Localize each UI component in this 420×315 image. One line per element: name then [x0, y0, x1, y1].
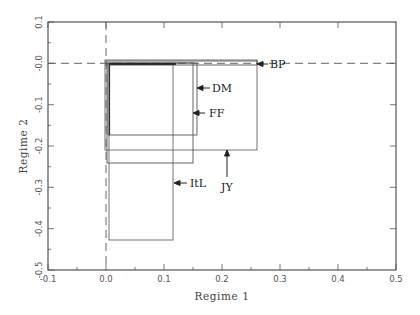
label-dm: DM — [212, 82, 232, 95]
plot-frame — [48, 22, 396, 270]
y-tick-label: -0.3 — [34, 179, 44, 196]
x-tick-label: 0.1 — [157, 274, 171, 284]
y-tick-label: -0.4 — [34, 220, 44, 237]
y-axis-title: Regime 2 — [17, 118, 29, 173]
arrow-dm-icon — [197, 86, 203, 91]
y-tick-labels: -0.5 -0.4 -0.3 -0.2 -0.1 -0.0 0.1 — [34, 15, 44, 278]
x-axis-title: Regime 1 — [194, 290, 249, 302]
y-axis-ticks — [48, 22, 396, 270]
label-jy: JY — [220, 181, 233, 194]
y-tick-label: -0.5 — [34, 262, 44, 279]
x-tick-label: 0.0 — [99, 274, 113, 284]
x-tick-label: 0.4 — [331, 274, 345, 284]
arrow-jy-icon — [225, 150, 230, 156]
x-tick-label: 0.2 — [215, 274, 229, 284]
rect-jy — [105, 60, 257, 150]
rect-ff — [107, 63, 193, 163]
x-tick-label: 0.3 — [273, 274, 287, 284]
annotation-arrows — [174, 62, 268, 186]
rect-dm — [108, 63, 197, 135]
arrow-itl-icon — [174, 181, 180, 186]
label-ff: FF — [209, 107, 225, 120]
rect-itl — [109, 64, 173, 240]
label-itl: ItL — [190, 177, 207, 190]
chart: -0.1 0.0 0.1 0.2 0.3 0.4 0.5 -0.5 -0.4 -… — [0, 0, 420, 315]
label-bp: BP — [270, 58, 286, 71]
y-tick-label: 0.1 — [34, 15, 44, 29]
arrow-ff-icon — [193, 111, 199, 116]
y-tick-label: -0.0 — [34, 55, 44, 72]
x-tick-label: 0.5 — [389, 274, 403, 284]
y-tick-label: -0.1 — [34, 96, 44, 113]
arrow-bp-icon — [257, 62, 263, 67]
y-tick-label: -0.2 — [34, 138, 44, 155]
x-axis-ticks — [48, 22, 396, 270]
confidence-rectangles — [105, 60, 257, 240]
x-tick-labels: -0.1 0.0 0.1 0.2 0.3 0.4 0.5 — [40, 274, 403, 284]
